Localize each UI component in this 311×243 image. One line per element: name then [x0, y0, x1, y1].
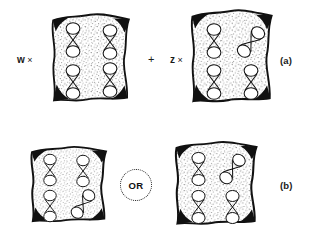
- panel-label-a: (a): [280, 55, 292, 66]
- cross-symbol-icon: ×: [178, 55, 183, 65]
- cell-cytoplasm-stipple: [31, 147, 106, 221]
- or-operator-badge: OR: [120, 169, 152, 201]
- panel-label-b: (b): [280, 180, 293, 191]
- chromosome-figure-canvas: [0, 0, 311, 243]
- cell-a1: [52, 14, 128, 100]
- or-operator-text: OR: [129, 180, 144, 191]
- cell-b2: [176, 142, 257, 224]
- plus-operator-label: +: [148, 53, 154, 65]
- cell-cytoplasm-stipple: [52, 14, 128, 100]
- cell-cytoplasm-stipple: [176, 142, 257, 224]
- cross-symbol-icon: ×: [27, 55, 32, 65]
- parent-w-label: w: [17, 54, 25, 65]
- parent-z-label: z: [170, 54, 175, 65]
- cell-a2: [192, 10, 272, 101]
- row-a-group: [52, 10, 271, 101]
- parent-w-cross-label: w×: [17, 54, 33, 65]
- cell-b1: [31, 147, 106, 222]
- parent-z-cross-label: z×: [170, 54, 183, 65]
- cell-cytoplasm-stipple: [192, 10, 272, 101]
